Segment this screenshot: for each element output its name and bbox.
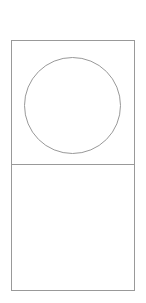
geometric-figure bbox=[0, 0, 146, 303]
circle-outline bbox=[25, 58, 121, 154]
figure-canvas bbox=[0, 0, 146, 303]
